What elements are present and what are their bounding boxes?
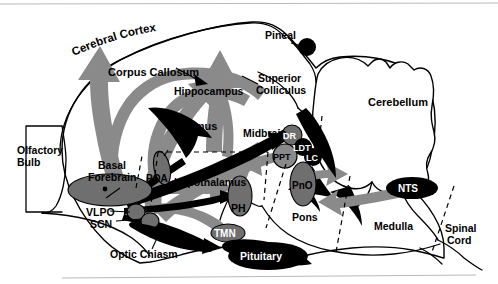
brain-diagram-figure: Cerebral Cortex Corpus Callosum Hippocam…	[0, 0, 498, 284]
label-cord: Cord	[447, 234, 472, 246]
label-spinal: Spinal	[445, 222, 477, 234]
label-pons: Pons	[292, 211, 318, 223]
label-basal: Basal	[98, 159, 126, 171]
label-ldt: LDT	[293, 143, 311, 153]
label-corpus-callosum: Corpus Callosum	[108, 66, 199, 78]
label-forebrain: Forebrain	[88, 171, 136, 183]
olfactory-bulb-outline	[26, 126, 62, 212]
label-olfactory: Olfactory	[17, 144, 63, 156]
label-scn: SCN	[90, 218, 112, 230]
label-hippocampus: Hippocampus	[174, 85, 244, 97]
label-midbrain: Midbrain	[243, 127, 287, 139]
label-hypothalamus: Hypothalamus	[174, 176, 247, 188]
label-superior: Superior	[258, 72, 301, 84]
label-pineal: Pineal	[265, 29, 296, 41]
pineal-circle	[298, 38, 316, 56]
label-ppt: PPT	[273, 152, 291, 162]
leader-dot-basal-forebrain	[103, 187, 108, 192]
brain-diagram-svg: Cerebral Cortex Corpus Callosum Hippocam…	[0, 0, 498, 284]
label-poa: POA	[146, 173, 168, 184]
scan-edge-bottom	[62, 275, 476, 278]
label-ph: PH	[231, 202, 246, 214]
label-bulb: Bulb	[17, 156, 40, 168]
label-thalamus: Thalamus	[166, 120, 217, 132]
label-dr: DR	[283, 131, 296, 141]
label-pno: PnO	[292, 180, 313, 191]
label-lc: LC	[306, 153, 318, 163]
label-cerebellum: Cerebellum	[368, 96, 428, 108]
label-colliculus: Colliculus	[256, 84, 306, 96]
label-optic-chiasm: Optic Chiasm	[110, 248, 178, 260]
label-tmn: TMN	[214, 228, 236, 239]
label-nts: NTS	[398, 183, 418, 194]
scan-edge-top	[0, 3, 498, 4]
label-vlpo: VLPO	[86, 206, 115, 218]
label-pituitary: Pituitary	[240, 250, 282, 262]
label-medulla: Medulla	[374, 220, 413, 232]
